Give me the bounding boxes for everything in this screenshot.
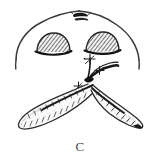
right-nostril-hatched <box>83 32 122 56</box>
left-elevated-flap <box>18 84 94 129</box>
drawing-ink-layer <box>16 11 143 129</box>
right-elevated-flap <box>91 86 143 128</box>
apex-dark-wedge <box>71 12 91 21</box>
left-nostril-hatched <box>34 33 73 56</box>
figure-caption: C <box>0 140 160 154</box>
suture-middle <box>95 67 104 75</box>
suture-upper <box>84 55 95 65</box>
figure-container: C <box>0 0 160 164</box>
